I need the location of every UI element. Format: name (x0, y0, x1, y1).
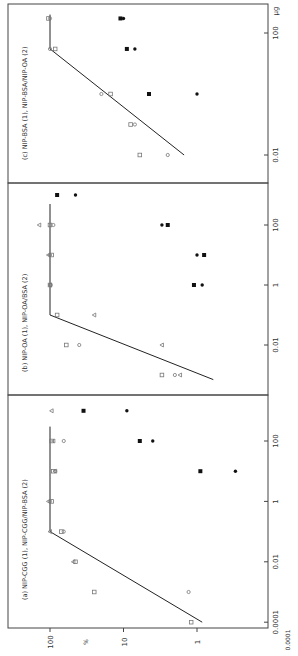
percent-tick-label: 10 (121, 638, 129, 647)
filled-circle-marker (74, 193, 77, 196)
open-square-marker (138, 153, 142, 157)
open-circle-marker (166, 153, 169, 156)
open-circle-marker (100, 92, 103, 95)
percent-axis-label: % (82, 639, 89, 645)
ug-tick-label: 100 (272, 434, 280, 447)
footer-label: 0.0001 (284, 629, 291, 650)
open-square-marker (53, 47, 57, 51)
filled-square-marker (125, 47, 129, 51)
filled-square-marker (147, 92, 151, 96)
ug-tick-label: 100 (272, 218, 280, 231)
filled-circle-marker (195, 92, 198, 95)
rotated-chart: 100101%0.00010.00010.011100(a) NIP-CGG (… (0, 0, 298, 656)
fit-line (50, 204, 213, 380)
open-square-marker (92, 590, 96, 594)
open-circle-marker (52, 223, 55, 226)
panel-title: (b) NIP-OA (1), NIP-OA/BSA (2) (21, 274, 29, 372)
open-square-marker (129, 123, 133, 127)
filled-square-marker (55, 193, 59, 197)
open-circle-marker (62, 530, 65, 533)
ug-tick-label: 0.01 (272, 337, 280, 353)
open-triangle-marker (37, 223, 41, 227)
ug-tick-label: 1 (272, 283, 280, 287)
ug-axis-label: µg (272, 7, 280, 16)
open-triangle-marker (92, 313, 96, 317)
open-circle-marker (78, 343, 81, 346)
panel-a: 0.00010.011100(a) NIP-CGG (1), NIP-CGG/N… (8, 395, 280, 634)
filled-circle-marker (160, 223, 163, 226)
open-triangle-marker (178, 373, 182, 377)
panel-title: (a) NIP-CGG (1), NIP-CGG/NIP-BSA (2) (21, 479, 29, 600)
open-circle-marker (62, 439, 65, 442)
open-square-marker (160, 373, 164, 377)
filled-circle-marker (234, 470, 237, 473)
open-circle-marker (173, 373, 176, 376)
fit-line (50, 427, 202, 623)
filled-square-marker (166, 223, 170, 227)
panel-b: 0.011100(b) NIP-OA (1), NIP-OA/BSA (2) (8, 183, 280, 395)
filled-square-marker (138, 439, 142, 443)
filled-circle-marker (133, 47, 136, 50)
percent-tick-label: 100 (47, 635, 55, 648)
filled-circle-marker (151, 439, 154, 442)
open-circle-marker (133, 123, 136, 126)
open-square-marker (189, 620, 193, 624)
filled-square-marker (198, 469, 202, 473)
open-triangle-marker (160, 343, 164, 347)
panel-title: (c) NIP-BSA (1), NIP-BSA/NIP-OA (2) (21, 46, 29, 160)
open-square-marker (65, 343, 69, 347)
open-triangle-marker (50, 409, 54, 413)
fit-line (50, 15, 184, 155)
filled-square-marker (202, 253, 206, 257)
filled-circle-marker (195, 253, 198, 256)
ug-tick-label: 100 (272, 26, 280, 39)
open-square-marker (55, 313, 59, 317)
filled-circle-marker (122, 17, 125, 20)
figure-container: 100101%0.00010.00010.011100(a) NIP-CGG (… (0, 0, 298, 656)
ug-tick-label: 0.01 (272, 554, 280, 570)
panel-frame (8, 395, 268, 628)
percent-tick-label: 1 (194, 640, 202, 644)
ug-tick-label: 0.01 (272, 147, 280, 163)
ug-tick-label: 1 (272, 499, 280, 503)
panel-c: 0.01100µg(c) NIP-BSA (1), NIP-BSA/NIP-OA… (8, 4, 280, 183)
panel-frame (8, 183, 268, 395)
filled-square-marker (82, 409, 86, 413)
filled-circle-marker (125, 409, 128, 412)
filled-square-marker (192, 283, 196, 287)
open-triangle-marker (71, 560, 75, 564)
open-circle-marker (187, 590, 190, 593)
ug-tick-label: 0.0001 (272, 610, 280, 635)
filled-circle-marker (200, 283, 203, 286)
